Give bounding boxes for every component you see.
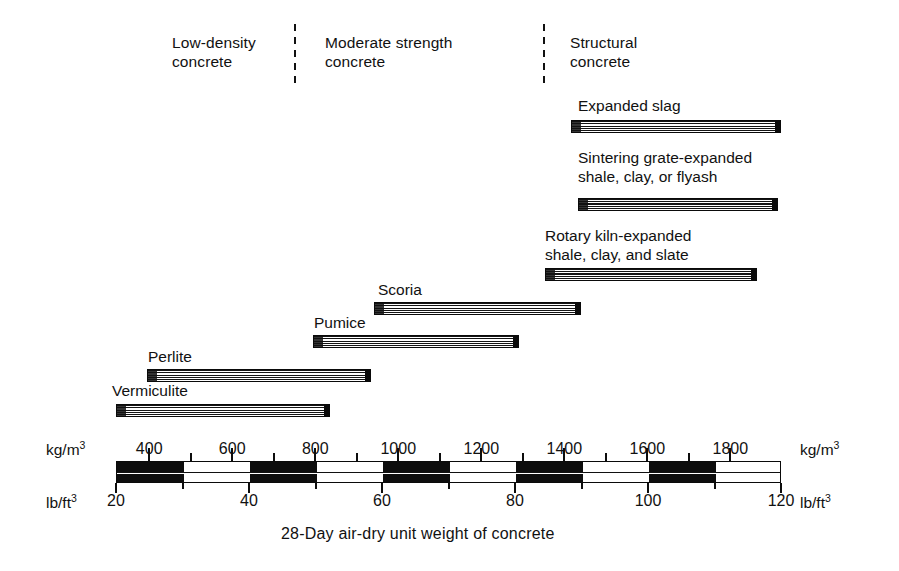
axis-tick-kg-1400: [563, 448, 565, 461]
axis-tick-label-lb-40: 40: [240, 492, 258, 510]
axis-unit-kg-right-sup: 3: [834, 439, 840, 451]
axis-unit-kg-right: kg/m3: [800, 441, 839, 459]
axis-tick-kg-600: [231, 448, 233, 461]
axis-tick-label-lb-100: 100: [635, 492, 662, 510]
axis-tick-label-lb-120: 120: [768, 492, 795, 510]
axis-tick-kg-400: [148, 448, 150, 461]
axis-tick-kg-700: [273, 453, 275, 461]
axis-unit-lb-right-sup: 3: [825, 492, 831, 504]
axis-tick-kg-1200: [480, 448, 482, 461]
axis-tick-kg-1500: [605, 453, 607, 461]
axis-unit-lb-left-sup: 3: [71, 492, 77, 504]
axis-tick-lb-110: [714, 483, 716, 489]
bar-label-vermiculite: Vermiculite: [112, 381, 188, 400]
axis-unit-lb-right: lb/ft3: [800, 494, 831, 512]
lightweight-concrete-unit-weight-chart: Low-density concrete Moderate strength c…: [0, 0, 899, 571]
range-bar-vermiculite: [116, 404, 330, 417]
range-bar-expanded-slag: [571, 120, 781, 133]
axis-tick-lb-40: [248, 483, 250, 493]
axis-unit-lb-right-text: lb/ft: [800, 494, 825, 511]
range-bar-scoria: [374, 302, 581, 315]
category-label-moderate-strength: Moderate strength concrete: [325, 33, 453, 71]
axis-tick-lb-90: [581, 483, 583, 489]
axis-tick-kg-1100: [439, 453, 441, 461]
axis-tick-lb-100: [647, 483, 649, 493]
axis-tick-lb-60: [381, 483, 383, 493]
range-bar-perlite: [147, 369, 371, 382]
axis-unit-lb-left: lb/ft3: [46, 494, 77, 512]
axis-tick-label-lb-20: 20: [107, 492, 125, 510]
axis-unit-kg-left: kg/m3: [46, 441, 85, 459]
axis-tick-lb-120: [780, 483, 782, 493]
bar-label-sintering-grate-expanded: Sintering grate-expanded shale, clay, or…: [578, 148, 752, 186]
axis-unit-lb-left-text: lb/ft: [46, 494, 71, 511]
axis-bar-centerline-stroke: [117, 472, 780, 473]
axis-tick-lb-50: [315, 483, 317, 489]
bar-label-rotary-kiln-expanded: Rotary kiln-expanded shale, clay, and sl…: [545, 226, 691, 264]
axis-tick-kg-800: [314, 448, 316, 461]
range-bar-pumice: [313, 335, 519, 348]
bar-label-expanded-slag: Expanded slag: [578, 96, 681, 115]
axis-tick-lb-80: [514, 483, 516, 493]
axis-tick-kg-1300: [522, 453, 524, 461]
axis-scale-bar: [116, 461, 781, 483]
axis-tick-label-lb-80: 80: [506, 492, 524, 510]
bar-label-perlite: Perlite: [148, 347, 192, 366]
axis-tick-kg-1000: [397, 448, 399, 461]
category-label-low-density: Low-density concrete: [172, 33, 256, 71]
axis-tick-kg-900: [356, 453, 358, 461]
category-divider-2: [543, 24, 545, 86]
axis-tick-lb-70: [448, 483, 450, 489]
axis-unit-kg-right-text: kg/m: [800, 441, 834, 458]
axis-tick-kg-500: [190, 453, 192, 461]
axis-tick-kg-1800: [729, 448, 731, 461]
axis-tick-label-lb-60: 60: [373, 492, 391, 510]
axis-tick-lb-30: [182, 483, 184, 489]
figure-caption: 28-Day air-dry unit weight of concrete: [281, 524, 555, 543]
axis-tick-kg-1600: [646, 448, 648, 461]
category-label-structural: Structural concrete: [570, 33, 637, 71]
axis-tick-lb-20: [115, 483, 117, 493]
axis-unit-kg-left-sup: 3: [80, 439, 86, 451]
range-bar-sintering-grate-expanded: [578, 198, 778, 211]
category-divider-1: [294, 24, 296, 86]
axis-tick-kg-1700: [688, 453, 690, 461]
axis-unit-kg-left-text: kg/m: [46, 441, 80, 458]
bar-label-pumice: Pumice: [314, 313, 366, 332]
bar-label-scoria: Scoria: [378, 280, 422, 299]
range-bar-rotary-kiln-expanded: [545, 268, 757, 281]
